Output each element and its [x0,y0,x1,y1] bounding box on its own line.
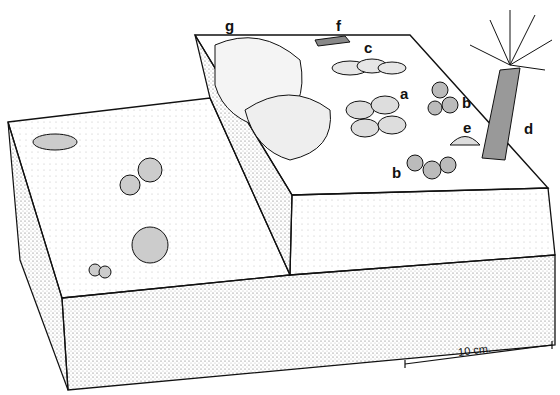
label-e: e [463,120,471,135]
label-b-lower: b [392,165,401,180]
label-d: d [524,121,533,136]
block-diagram [0,0,560,395]
label-a: a [400,86,408,101]
label-f: f [336,18,341,33]
label-b-upper: b [462,95,471,110]
label-g: g [225,18,234,33]
label-c: c [364,40,372,55]
